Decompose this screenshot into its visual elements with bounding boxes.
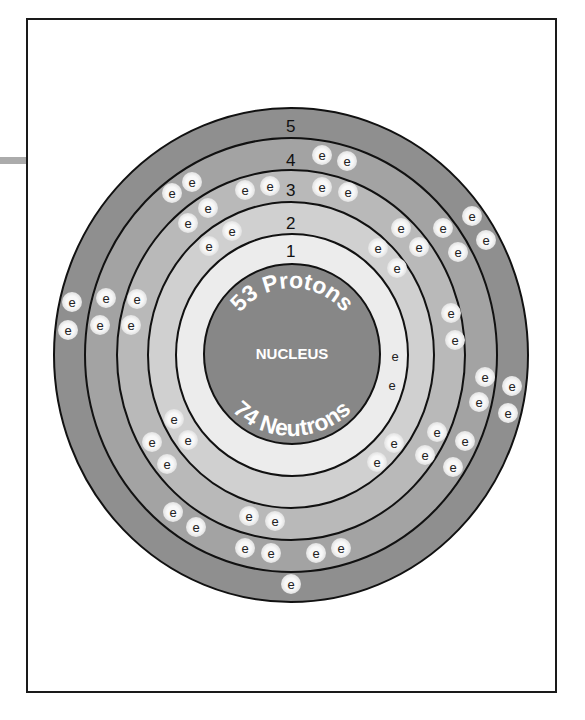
- electron-symbol: e: [451, 333, 458, 348]
- electron-symbol: e: [204, 201, 211, 216]
- electron: e: [261, 543, 281, 563]
- electron-symbol: e: [318, 180, 325, 195]
- electron: e: [62, 292, 82, 312]
- electron-symbol: e: [481, 370, 488, 385]
- electron: e: [368, 238, 388, 258]
- electron-symbol: e: [374, 241, 381, 256]
- electron: e: [96, 288, 116, 308]
- electron-symbol: e: [454, 245, 461, 260]
- electron-symbol: e: [468, 209, 475, 224]
- electron-symbol: e: [461, 434, 468, 449]
- electron-symbol: e: [163, 457, 170, 472]
- electron: e: [198, 198, 218, 218]
- electron-symbol: e: [318, 148, 325, 163]
- electron: e: [409, 237, 429, 257]
- electron: e: [260, 176, 280, 196]
- electron-symbol: e: [343, 154, 350, 169]
- electron: e: [469, 392, 489, 412]
- shell-label-4: 4: [286, 151, 295, 170]
- electron: e: [441, 303, 461, 323]
- electron: e: [235, 538, 255, 558]
- electron: e: [186, 517, 206, 537]
- electron-symbol: e: [449, 460, 456, 475]
- electron: e: [306, 543, 326, 563]
- electron: e: [476, 230, 496, 250]
- electron: e: [367, 452, 387, 472]
- electron-symbol: e: [344, 185, 351, 200]
- electron-symbol: e: [433, 425, 440, 440]
- electron: e: [445, 330, 465, 350]
- electron: e: [178, 430, 198, 450]
- electron-symbol: e: [271, 514, 278, 529]
- electron: e: [157, 454, 177, 474]
- electron-symbol: e: [447, 306, 454, 321]
- electron: e: [337, 151, 357, 171]
- shell-label-3: 3: [286, 181, 295, 200]
- nucleus-label: NUCLEUS: [256, 345, 329, 362]
- electron-symbol: e: [64, 323, 71, 338]
- electron: e: [178, 213, 198, 233]
- electron-symbol: e: [169, 505, 176, 520]
- electron-symbol: e: [373, 455, 380, 470]
- electron: e: [475, 367, 495, 387]
- electron-symbol: e: [287, 577, 294, 592]
- electron: e: [455, 431, 475, 451]
- electron-symbol: e: [245, 509, 252, 524]
- electron-symbol: e: [168, 186, 175, 201]
- electron: e: [338, 182, 358, 202]
- electron: e: [222, 221, 242, 241]
- electron: e: [182, 172, 202, 192]
- electron-symbol: e: [170, 412, 177, 427]
- electron: e: [443, 457, 463, 477]
- electron-symbol: e: [393, 261, 400, 276]
- electron-symbol: e: [266, 179, 273, 194]
- electron: e: [448, 242, 468, 262]
- electron-symbol: e: [205, 239, 212, 254]
- electron: e: [462, 206, 482, 226]
- electron-symbol: e: [133, 292, 140, 307]
- electron-symbol: e: [390, 436, 397, 451]
- electron: e: [433, 218, 453, 238]
- electron: e: [384, 433, 404, 453]
- electron: e: [235, 180, 255, 200]
- electron-symbol: e: [475, 395, 482, 410]
- electron-symbol: e: [439, 221, 446, 236]
- electron-symbol: e: [337, 541, 344, 556]
- electron-symbol: e: [148, 435, 155, 450]
- electron: e: [498, 403, 518, 423]
- electron: e: [162, 183, 182, 203]
- shell-label-5: 5: [286, 117, 295, 136]
- electron-symbol: e: [228, 224, 235, 239]
- electron: e: [391, 349, 398, 364]
- electron-symbol: e: [184, 216, 191, 231]
- electron: e: [331, 538, 351, 558]
- electron-symbol: e: [241, 183, 248, 198]
- electron-symbol: e: [397, 221, 404, 236]
- electron: e: [427, 422, 447, 442]
- shell-label-1: 1: [286, 242, 295, 261]
- electron-symbol: e: [241, 541, 248, 556]
- electron: e: [239, 506, 259, 526]
- electron-symbol: e: [102, 291, 109, 306]
- electron: e: [164, 409, 184, 429]
- electron: e: [388, 378, 395, 393]
- electron: e: [281, 574, 301, 594]
- atom-diagram: 5 4 3 2 1 53 Protons NUCLEUS 74 Neutrons…: [0, 0, 585, 720]
- electron: e: [391, 218, 411, 238]
- electron: e: [163, 502, 183, 522]
- electron: e: [312, 177, 332, 197]
- electron-symbol: e: [96, 318, 103, 333]
- electron-symbol: e: [421, 448, 428, 463]
- electron-symbol: e: [482, 233, 489, 248]
- electron-symbol: e: [504, 406, 511, 421]
- electron-symbol: e: [508, 379, 515, 394]
- electron: e: [387, 258, 407, 278]
- electron: e: [127, 289, 147, 309]
- electron-symbol: e: [127, 318, 134, 333]
- electron: e: [90, 315, 110, 335]
- electron-symbol: e: [192, 520, 199, 535]
- electron-symbol: e: [415, 240, 422, 255]
- electron: e: [142, 432, 162, 452]
- electron-symbol: e: [68, 295, 75, 310]
- shell-label-2: 2: [286, 214, 295, 233]
